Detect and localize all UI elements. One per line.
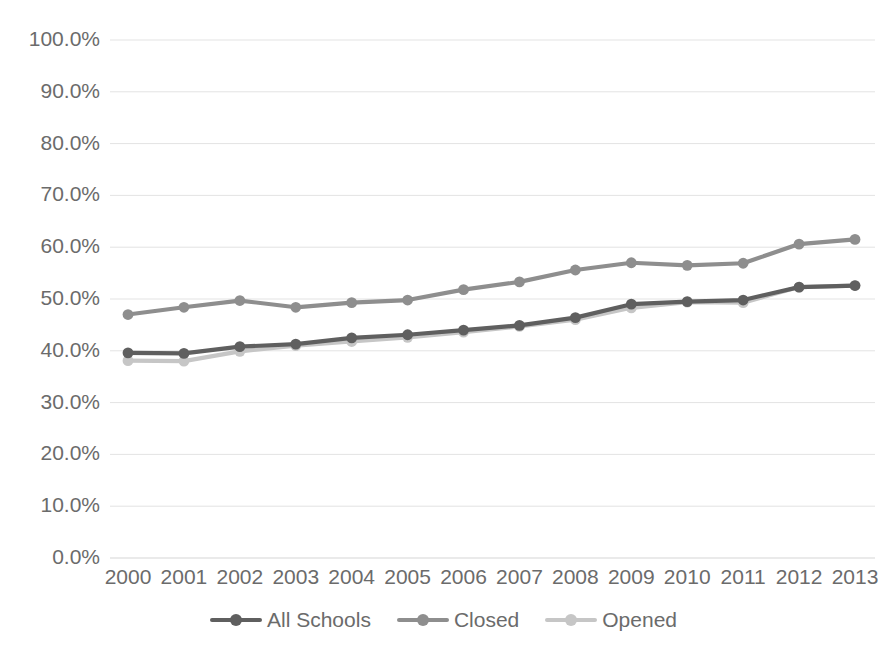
data-point <box>123 347 134 358</box>
legend-label: Opened <box>602 608 677 632</box>
legend-label: Closed <box>454 608 519 632</box>
data-point <box>682 260 693 271</box>
data-point <box>402 329 413 340</box>
data-point <box>850 234 861 245</box>
chart-legend: All SchoolsClosedOpened <box>0 608 887 632</box>
series-opened <box>123 280 861 366</box>
data-point <box>346 332 357 343</box>
series-all-schools <box>123 280 861 359</box>
x-axis-tick-label: 2011 <box>715 565 771 589</box>
data-point <box>626 299 637 310</box>
data-point <box>179 302 190 313</box>
data-point <box>514 277 525 288</box>
data-point <box>290 339 301 350</box>
x-axis-tick-label: 2000 <box>100 565 156 589</box>
x-axis-tick-label: 2006 <box>436 565 492 589</box>
x-axis-tick-label: 2002 <box>212 565 268 589</box>
x-axis-tick-label: 2005 <box>380 565 436 589</box>
data-point <box>179 348 190 359</box>
data-point <box>626 257 637 268</box>
data-point <box>514 320 525 331</box>
data-point <box>570 312 581 323</box>
x-axis-tick-label: 2012 <box>771 565 827 589</box>
data-point <box>234 295 245 306</box>
data-point <box>458 284 469 295</box>
data-point <box>290 302 301 313</box>
legend-item-opened[interactable]: Opened <box>545 608 677 632</box>
data-point <box>850 280 861 291</box>
x-axis-tick-label: 2008 <box>547 565 603 589</box>
legend-swatch-icon <box>210 612 262 628</box>
data-point <box>682 296 693 307</box>
line-chart: 0.0%10.0%20.0%30.0%40.0%50.0%60.0%70.0%8… <box>0 0 887 668</box>
x-axis-tick-label: 2010 <box>659 565 715 589</box>
data-point <box>794 239 805 250</box>
x-axis-tick-label: 2001 <box>156 565 212 589</box>
legend-item-all-schools[interactable]: All Schools <box>210 608 371 632</box>
data-point <box>738 295 749 306</box>
data-point <box>738 258 749 269</box>
legend-item-closed[interactable]: Closed <box>397 608 519 632</box>
legend-label: All Schools <box>267 608 371 632</box>
legend-swatch-icon <box>397 612 449 628</box>
data-point <box>123 309 134 320</box>
x-axis-tick-label: 2004 <box>324 565 380 589</box>
data-point <box>570 265 581 276</box>
x-axis-tick-label: 2009 <box>603 565 659 589</box>
data-point <box>402 295 413 306</box>
series-layer <box>123 234 861 367</box>
data-point <box>234 341 245 352</box>
x-axis-tick-label: 2013 <box>827 565 883 589</box>
data-point <box>346 297 357 308</box>
data-point <box>458 325 469 336</box>
x-axis-tick-label: 2003 <box>268 565 324 589</box>
x-axis-tick-label: 2007 <box>491 565 547 589</box>
data-point <box>794 282 805 293</box>
legend-swatch-icon <box>545 612 597 628</box>
